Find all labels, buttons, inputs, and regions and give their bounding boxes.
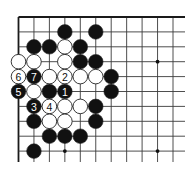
black-stone xyxy=(73,129,88,144)
go-board: 6725134 xyxy=(0,0,193,169)
white-stone xyxy=(42,114,57,129)
white-stone-icon xyxy=(73,99,88,114)
white-stone-move-2: 2 xyxy=(58,69,73,84)
black-stone-icon xyxy=(27,40,42,55)
black-stone xyxy=(88,99,103,114)
move-number-label: 4 xyxy=(46,101,52,113)
black-stone xyxy=(42,40,57,55)
black-stone-icon xyxy=(42,84,57,99)
black-stone-icon xyxy=(27,114,42,129)
move-number-label: 6 xyxy=(16,71,22,83)
black-stone-icon xyxy=(104,69,119,84)
white-stone-icon xyxy=(42,114,57,129)
move-number-label: 2 xyxy=(62,71,68,83)
black-stone xyxy=(27,114,42,129)
black-stone-move-3: 3 xyxy=(27,99,42,114)
white-stone-icon xyxy=(88,69,103,84)
black-stone-icon xyxy=(42,129,57,144)
white-stone xyxy=(58,114,73,129)
black-stone xyxy=(104,69,119,84)
black-stone-icon xyxy=(58,25,73,40)
black-stone-icon xyxy=(88,99,103,114)
star-point-icon xyxy=(156,149,160,153)
white-stone-icon xyxy=(42,69,57,84)
move-number-label: 3 xyxy=(31,101,37,113)
white-stone xyxy=(27,54,42,69)
black-stone xyxy=(27,40,42,55)
black-stone xyxy=(88,54,103,69)
black-stone xyxy=(88,114,103,129)
black-stone-icon xyxy=(73,40,88,55)
black-stone-icon xyxy=(88,54,103,69)
star-point-icon xyxy=(156,60,160,64)
black-stone-icon xyxy=(73,129,88,144)
move-number-label: 7 xyxy=(31,71,37,83)
black-stone-move-1: 1 xyxy=(58,84,73,99)
black-stone-icon xyxy=(27,144,42,159)
white-stone-icon xyxy=(58,54,73,69)
black-stone-icon xyxy=(104,84,119,99)
white-stone-move-6: 6 xyxy=(11,69,26,84)
black-stone-icon xyxy=(88,25,103,40)
white-stone xyxy=(58,99,73,114)
white-stone-icon xyxy=(58,40,73,55)
black-stone xyxy=(42,84,57,99)
white-stone xyxy=(42,69,57,84)
white-stone xyxy=(58,54,73,69)
white-stone-icon xyxy=(11,54,26,69)
black-stone-icon xyxy=(88,114,103,129)
black-stone-icon xyxy=(73,54,88,69)
white-stone xyxy=(73,69,88,84)
move-number-label: 5 xyxy=(16,86,22,98)
black-stone xyxy=(73,40,88,55)
white-stone-icon xyxy=(27,84,42,99)
black-stone xyxy=(42,129,57,144)
black-stone xyxy=(104,84,119,99)
black-stone-icon xyxy=(58,129,73,144)
white-stone xyxy=(88,69,103,84)
white-stone-icon xyxy=(27,54,42,69)
white-stone-icon xyxy=(58,99,73,114)
black-stone-move-7: 7 xyxy=(27,69,42,84)
move-number-label: 1 xyxy=(62,86,68,98)
white-stone xyxy=(58,40,73,55)
black-stone xyxy=(58,25,73,40)
black-stone-icon xyxy=(42,40,57,55)
black-stone xyxy=(88,25,103,40)
black-stone-move-5: 5 xyxy=(11,84,26,99)
black-stone xyxy=(73,54,88,69)
star-point-icon xyxy=(63,149,67,153)
white-stone-move-4: 4 xyxy=(42,99,57,114)
black-stone xyxy=(27,144,42,159)
white-stone-icon xyxy=(73,69,88,84)
white-stone xyxy=(27,84,42,99)
white-stone-icon xyxy=(58,114,73,129)
white-stone xyxy=(11,54,26,69)
black-stone xyxy=(58,129,73,144)
white-stone xyxy=(73,99,88,114)
